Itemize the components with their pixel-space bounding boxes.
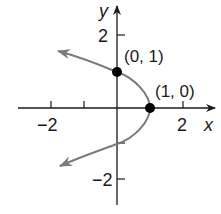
x-tick-label-2: 2 [177,115,187,135]
x-axis-label: x [203,115,214,135]
graph: y x 2 −2 −2 2 (0, 1) (1, 0) [0,0,221,214]
parabola-upper-branch [58,51,117,72]
point-label-1-0: (1, 0) [155,82,195,101]
point-1-0 [145,103,155,113]
point-label-0-1: (0, 1) [124,47,164,66]
x-tick-label-neg2: −2 [37,115,58,135]
y-tick-label-2: 2 [98,26,108,46]
parabola-lower-branch [60,144,117,166]
y-tick-label-neg2: −2 [92,170,113,190]
point-0-1 [112,67,122,77]
y-axis-label: y [97,1,109,21]
